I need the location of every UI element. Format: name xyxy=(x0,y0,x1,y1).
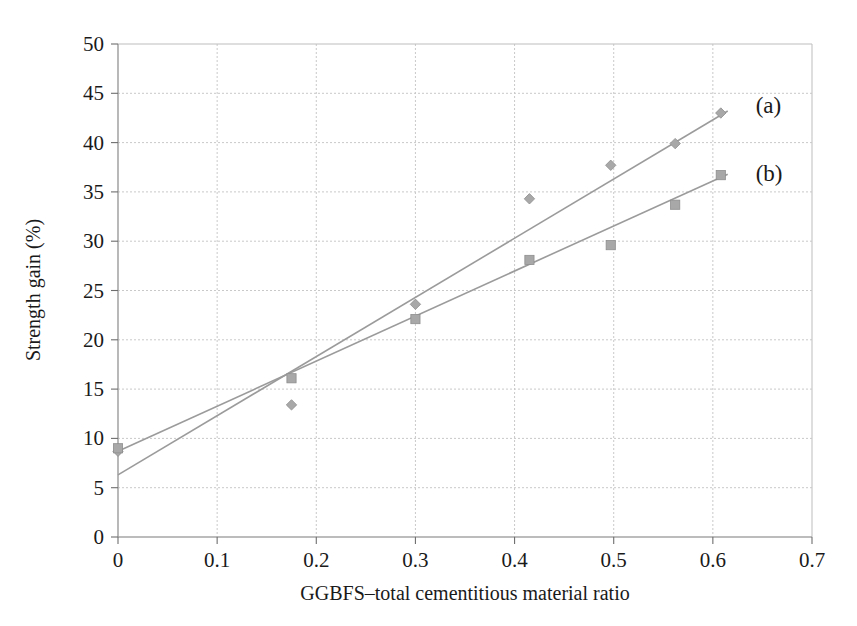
data-point-square xyxy=(411,314,420,323)
y-tick-labels: 05101520253035404550 xyxy=(83,32,104,549)
y-tick-label: 10 xyxy=(83,426,104,450)
y-tick-label: 30 xyxy=(83,229,104,253)
y-axis-title: Strength gain (%) xyxy=(22,219,45,361)
x-tick-label: 0.4 xyxy=(501,548,528,572)
data-point-diamond xyxy=(524,194,534,204)
x-tick-label: 0.5 xyxy=(601,548,627,572)
x-tick-labels: 00.10.20.30.40.50.60.7 xyxy=(113,548,825,572)
x-tick-label: 0.3 xyxy=(402,548,428,572)
y-tick-label: 0 xyxy=(94,525,105,549)
data-point-square xyxy=(113,444,122,453)
series-label-b: (b) xyxy=(756,161,783,186)
data-markers xyxy=(113,108,726,457)
data-point-diamond xyxy=(410,299,420,309)
series-labels: (a)(b) xyxy=(756,93,783,186)
y-tick-label: 45 xyxy=(83,81,104,105)
y-tick-label: 35 xyxy=(83,180,104,204)
data-point-square xyxy=(525,255,534,264)
y-tick-label: 5 xyxy=(94,476,105,500)
x-tick-label: 0.6 xyxy=(700,548,726,572)
data-point-diamond xyxy=(606,160,616,170)
data-point-square xyxy=(287,374,296,383)
y-tick-label: 20 xyxy=(83,328,104,352)
trend-lines xyxy=(118,111,728,475)
trend-line-a xyxy=(118,111,728,475)
y-tick-label: 40 xyxy=(83,131,104,155)
y-tick-label: 15 xyxy=(83,377,104,401)
trend-line-b xyxy=(118,174,728,451)
x-tick-label: 0 xyxy=(113,548,124,572)
x-tick-label: 0.7 xyxy=(799,548,825,572)
scatter-plot: 00.10.20.30.40.50.60.7 05101520253035404… xyxy=(0,0,857,626)
tick-marks xyxy=(111,44,812,544)
y-tick-label: 50 xyxy=(83,32,104,56)
data-point-diamond xyxy=(286,400,296,410)
chart-figure: 00.10.20.30.40.50.60.7 05101520253035404… xyxy=(0,0,857,626)
x-axis-title: GGBFS–total cementitious material ratio xyxy=(300,582,629,604)
data-point-square xyxy=(606,241,615,250)
gridlines xyxy=(118,44,812,537)
y-tick-label: 25 xyxy=(83,279,104,303)
x-tick-label: 0.1 xyxy=(204,548,230,572)
data-point-square xyxy=(671,200,680,209)
x-tick-label: 0.2 xyxy=(303,548,329,572)
series-label-a: (a) xyxy=(756,93,782,118)
data-point-square xyxy=(716,171,725,180)
